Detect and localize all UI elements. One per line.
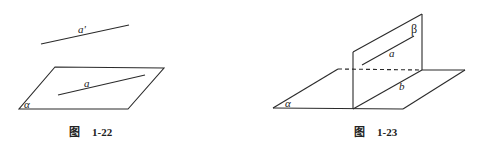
- label-a: a: [389, 47, 395, 59]
- diagram-canvas: a' a α 图 1-22 a β b α 图 1-23: [0, 0, 483, 146]
- plane-alpha: [19, 67, 164, 109]
- plane-alpha-front-edge: [273, 108, 403, 109]
- label-a-prime: a': [78, 23, 87, 35]
- label-alpha: α: [24, 98, 30, 110]
- caption-number: 1-22: [92, 126, 113, 138]
- caption-prefix: 图: [354, 126, 365, 138]
- plane-alpha-left-edge: [273, 69, 338, 108]
- label-beta: β: [411, 22, 417, 36]
- caption-prefix: 图: [69, 126, 80, 138]
- caption-number: 1-23: [377, 126, 398, 138]
- plane-alpha-hidden-edge: [338, 69, 422, 70]
- label-alpha: α: [285, 97, 291, 109]
- label-b: b: [399, 80, 405, 92]
- label-a: a: [84, 77, 90, 89]
- figure-1-23: a β b α 图 1-23: [273, 14, 465, 138]
- figure-1-22: a' a α 图 1-22: [19, 23, 164, 138]
- line-a: [58, 75, 145, 95]
- line-a: [362, 36, 414, 65]
